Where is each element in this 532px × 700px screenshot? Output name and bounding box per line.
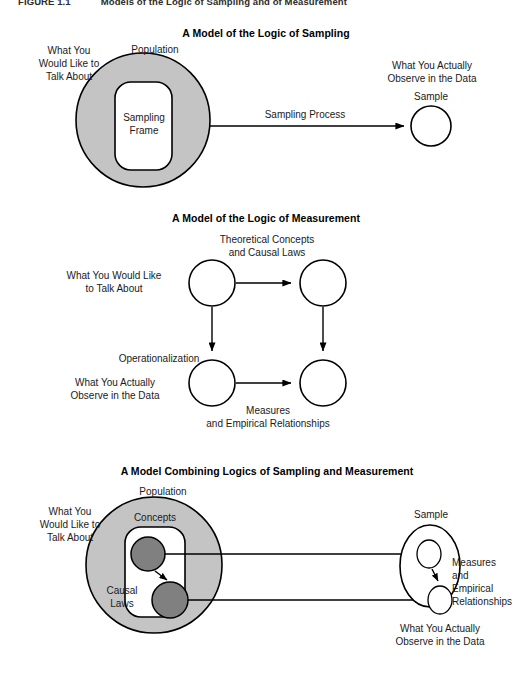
sampling-frame-label: Sampling Frame [115,111,173,137]
combined-bottom-caption: What You Actually Observe in the Data [372,622,508,648]
measurement-left-upper-caption: What You Would Like to Talk About [52,269,176,295]
operationalization-label: Operationalization [104,352,214,365]
panel-title-combined: A Model Combining Logics of Sampling and… [80,465,454,478]
combined-population-label: Population [118,485,208,498]
combined-measures-label: Measures and Empirical Relationships [452,556,532,608]
sample-measure-ellipse-lower [428,586,452,614]
theoretical-concept-circle-left [189,260,235,306]
figure-header: FIGURE 1.1Models of the Logic of Samplin… [18,0,518,8]
combined-sample-label: Sample [396,508,466,521]
theoretical-concepts-caption: Theoretical Concepts and Causal Laws [195,233,339,259]
sampling-left-caption: What You Would Like to Talk About [20,44,118,83]
panel-title-measurement: A Model of the Logic of Measurement [116,212,416,225]
concept-disk-upper [131,537,165,571]
empirical-relationship-arrow-combined [432,569,438,581]
theoretical-concept-circle-right [300,260,346,306]
measures-empirical-caption: Measures and Empirical Relationships [174,404,362,430]
figure-number: FIGURE 1.1 [18,0,71,7]
figure-caption: Models of the Logic of Sampling and of M… [101,0,347,7]
sample-label: Sample [396,90,466,103]
sampling-right-caption: What You Actually Observe in the Data [364,59,500,85]
measure-circle-right [300,360,346,406]
figure-root: FIGURE 1.1Models of the Logic of Samplin… [0,0,532,700]
measure-circle-left [189,360,235,406]
population-label: Population [110,43,200,56]
sampling-process-label: Sampling Process [240,108,370,121]
sample-circle [411,106,451,146]
causal-law-arrow-combined [155,571,167,580]
panel-measurement-graphics [189,260,346,406]
measurement-left-lower-caption: What You Actually Observe in the Data [54,376,176,402]
concepts-label: Concepts [117,511,193,524]
sample-measure-ellipse-upper [417,540,441,568]
combined-sample-ellipse [400,525,460,607]
concept-disk-lower [152,582,188,618]
causal-laws-label: Causal Laws [96,584,148,610]
panel-title-sampling: A Model of the Logic of Sampling [116,27,416,40]
combined-left-caption: What You Would Like to Talk About [20,505,120,544]
